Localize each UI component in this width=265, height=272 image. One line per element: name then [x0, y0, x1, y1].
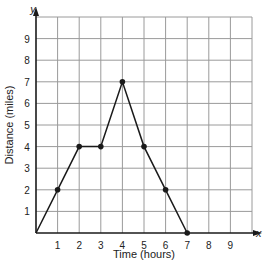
data-point-marker	[184, 230, 190, 236]
x-axis-title: Time (hours)	[113, 248, 175, 260]
y-axis-title: Distance (miles)	[3, 86, 15, 165]
x-tick-label: 9	[228, 240, 234, 251]
y-tick-label: 1	[24, 206, 30, 217]
series-line	[36, 82, 187, 233]
data-point-marker	[120, 79, 126, 85]
data-series	[36, 79, 190, 236]
x-tick-label: 8	[206, 240, 212, 251]
x-tick-label: 3	[98, 240, 104, 251]
x-axis-letter: x	[255, 227, 262, 239]
x-tick-label: 7	[184, 240, 190, 251]
data-point-marker	[55, 187, 61, 193]
y-tick-label: 7	[24, 77, 30, 88]
tick-labels: 123456789123456789	[24, 34, 233, 251]
y-tick-label: 3	[24, 163, 30, 174]
y-tick-label: 6	[24, 98, 30, 109]
y-tick-label: 5	[24, 120, 30, 131]
data-point-marker	[163, 187, 169, 193]
axes	[33, 7, 262, 236]
grid-lines	[36, 17, 252, 233]
data-point-marker	[141, 144, 147, 150]
x-tick-label: 1	[55, 240, 61, 251]
data-point-marker	[76, 144, 82, 150]
distance-time-chart: 123456789123456789 Time (hours) Distance…	[0, 0, 265, 272]
y-tick-label: 8	[24, 55, 30, 66]
y-tick-label: 9	[24, 34, 30, 45]
x-tick-label: 2	[76, 240, 82, 251]
y-tick-label: 4	[24, 142, 30, 153]
data-point-marker	[98, 144, 104, 150]
y-tick-label: 2	[24, 185, 30, 196]
